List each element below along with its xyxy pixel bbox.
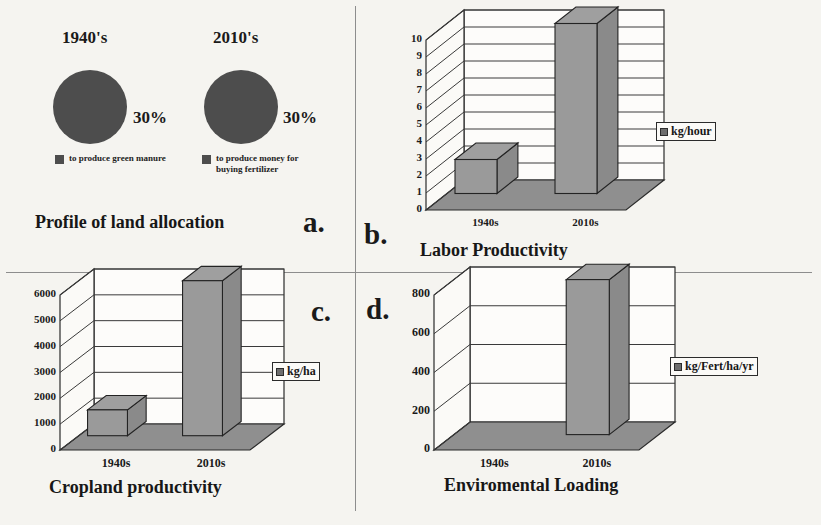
y-axis-tick-label: 3 <box>404 151 422 163</box>
y-axis-tick-label: 5 <box>404 117 422 129</box>
y-axis-tick-label: 400 <box>400 364 430 379</box>
x-axis-tick-label: 1940s <box>82 456 150 471</box>
chart-d-legend-label: kg/Fert/ha/yr <box>685 359 754 374</box>
pie-1940s-legend: to produce green manure <box>55 153 167 164</box>
y-axis-tick-label: 2 <box>404 168 422 180</box>
pie-1940s-percent-label: 30% <box>133 108 167 128</box>
y-axis-tick-label: 0 <box>400 441 430 456</box>
pie-2010s-legend: to produce money for buying fertilizer <box>202 153 314 175</box>
x-axis-tick-label: 1940s <box>452 216 520 228</box>
y-axis-tick-label: 1000 <box>16 416 56 428</box>
pie-a-2-header: 2010's <box>213 28 258 48</box>
legend-swatch-icon <box>674 363 682 371</box>
y-axis-tick-label: 9 <box>404 49 422 61</box>
y-axis-tick-label: 800 <box>400 286 430 301</box>
y-axis-tick-label: 8 <box>404 66 422 78</box>
y-axis-tick-label: 6 <box>404 100 422 112</box>
x-axis-tick-label: 2010s <box>563 456 631 471</box>
figure-root: 1940's 2010's 30% 30% to produce green m… <box>0 0 821 525</box>
y-axis-tick-label: 4000 <box>16 339 56 351</box>
chart-b-legend-label: kg/hour <box>671 124 712 139</box>
x-axis-tick-label: 2010s <box>177 456 245 471</box>
chart-3d-box <box>356 273 705 510</box>
y-axis-tick-label: 10 <box>404 32 422 44</box>
y-axis-tick-label: 0 <box>404 202 422 214</box>
chart-c-legend-label: kg/ha <box>287 364 316 379</box>
chart-c-legend: kg/ha <box>272 362 320 381</box>
pie-chart-1940s <box>53 70 127 144</box>
chart-d-legend: kg/Fert/ha/yr <box>670 357 758 376</box>
y-axis-tick-label: 200 <box>400 403 430 418</box>
pie-2010s-legend-label: to produce money for buying fertilizer <box>216 153 314 175</box>
y-axis-tick-label: 6000 <box>16 287 56 299</box>
pie-1940s-legend-label: to produce green manure <box>69 153 167 164</box>
panel-a-land-allocation: 1940's 2010's 30% 30% to produce green m… <box>0 0 355 272</box>
legend-swatch-icon <box>55 155 64 164</box>
y-axis-tick-label: 2000 <box>16 390 56 402</box>
x-axis-tick-label: 2010s <box>552 216 620 228</box>
y-axis-tick-label: 5000 <box>16 313 56 325</box>
y-axis-tick-label: 600 <box>400 325 430 340</box>
panel-b-labor-productivity: b. Labor Productivity 0123456789101940s2… <box>356 0 821 272</box>
y-axis-tick-label: 1 <box>404 185 422 197</box>
panel-d-environmental-loading: d. Enviromental Loading 0200400600800194… <box>356 273 821 525</box>
pie-chart-2010s <box>204 70 278 144</box>
y-axis-tick-label: 7 <box>404 83 422 95</box>
panel-a-letter: a. <box>303 206 325 239</box>
legend-swatch-icon <box>202 155 211 164</box>
panel-a-title: Profile of land allocation <box>35 212 224 233</box>
pie-2010s-percent-label: 30% <box>283 108 317 128</box>
legend-swatch-icon <box>276 368 284 376</box>
legend-swatch-icon <box>660 128 668 136</box>
panel-c-cropland-productivity: c. Cropland productivity 010002000300040… <box>0 273 355 525</box>
chart-labor-productivity: 0123456789101940s2010s <box>356 0 821 240</box>
chart-b-legend: kg/hour <box>656 122 716 141</box>
y-axis-tick-label: 3000 <box>16 365 56 377</box>
y-axis-tick-label: 4 <box>404 134 422 146</box>
pie-a-1-header: 1940's <box>62 28 107 48</box>
y-axis-tick-label: 0 <box>16 442 56 454</box>
x-axis-tick-label: 1940s <box>460 456 528 471</box>
